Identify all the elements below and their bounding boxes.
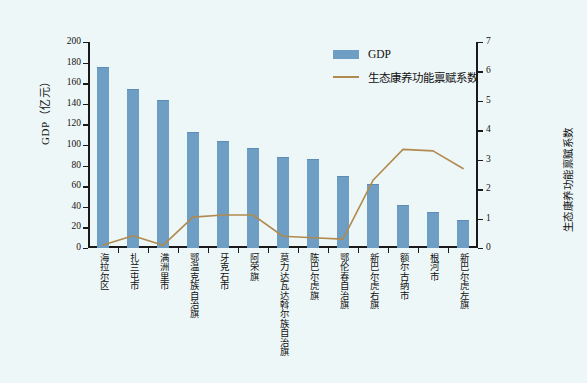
x-category-label: 新巴尔虎右旗 [368,253,378,309]
y-tick-label-right: 2 [486,184,491,194]
y-tick-label-left: 20 [72,223,82,233]
line-series-coefficient [88,42,478,248]
y-tick-label-left: 100 [67,140,81,150]
y-tick-label-right: 1 [486,214,491,224]
chart-figure: GDP（亿元） 生态康养功能禀赋系数 GDP 生态康养功能禀赋系数 020406… [0,0,587,383]
y-tick-label-right: 0 [486,243,491,253]
y-tick-label-right: 4 [486,126,491,136]
y-tick-right [478,248,483,249]
y-tick-label-left: 40 [72,202,82,212]
x-category-label: 陈巴尔虎旗 [308,253,318,300]
y-tick-label-left: 120 [67,120,81,130]
x-category-label: 鄂伦春自治旗 [338,253,348,309]
y-tick-label-right: 5 [486,96,491,106]
plot-area: 020406080100120140160180200 01234567 [88,42,478,248]
x-category-label: 牙克石市 [218,253,228,291]
y-tick-label-left: 80 [72,161,82,171]
y-tick-left [83,248,88,249]
y-tick-label-left: 180 [67,58,81,68]
y-tick-right [478,130,483,131]
y-tick-label-left: 60 [72,181,82,191]
y-axis-left-title: GDP（亿元） [36,75,52,145]
x-category-label: 海拉尔区 [98,253,108,291]
y-tick-right [478,101,483,102]
y-tick-label-left: 200 [67,37,81,47]
x-category-label: 阿荣旗 [248,253,258,281]
x-category-label: 新巴尔虎左旗 [458,253,468,309]
y-tick-right [478,219,483,220]
x-category-label: 莫力达瓦达斡尔族自治旗 [278,253,288,356]
y-tick-label-left: 140 [67,99,81,109]
y-tick-label-right: 3 [486,155,491,165]
x-category-label: 根河市 [428,253,438,281]
x-category-label: 额尔古纳市 [398,253,408,300]
coefficient-polyline [103,149,463,245]
y-tick-right [478,71,483,72]
y-tick-label-left: 160 [67,78,81,88]
x-category-label: 鄂温克族自治旗 [188,253,198,319]
y-tick-right [478,189,483,190]
x-category-label: 满洲里市 [158,253,168,291]
y-tick-right [478,160,483,161]
x-axis-category-labels: 海拉尔区扎兰屯市满洲里市鄂温克族自治旗牙克石市阿荣旗莫力达瓦达斡尔族自治旗陈巴尔… [88,253,478,371]
y-axis-right-title: 生态康养功能禀赋系数 [560,127,575,232]
y-tick-label-right: 7 [486,37,491,47]
y-tick-label-right: 6 [486,67,491,77]
y-tick-label-left: 0 [76,243,81,253]
x-category-label: 扎兰屯市 [128,253,138,291]
y-tick-right [478,42,483,43]
